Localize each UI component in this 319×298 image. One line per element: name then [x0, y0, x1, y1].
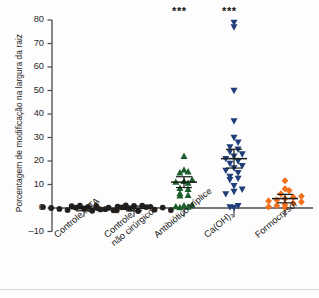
data-point: [57, 206, 63, 212]
data-point: [185, 186, 192, 192]
data-point: [235, 176, 242, 182]
data-point: [231, 118, 238, 124]
data-point: [226, 174, 233, 180]
significance-marker-2: ***: [172, 5, 187, 17]
data-point: [265, 197, 272, 204]
data-point: [239, 151, 246, 157]
data-point: [222, 191, 229, 197]
y-tick-label-60: 60: [18, 62, 44, 71]
data-point: [65, 207, 71, 213]
data-point: [181, 153, 188, 159]
data-point: [231, 88, 238, 94]
data-point: [235, 140, 242, 146]
y-tick-label-50: 50: [18, 86, 44, 95]
data-point: [111, 207, 117, 213]
y-tick-label-70: 70: [18, 39, 44, 48]
data-point: [298, 193, 305, 200]
data-point: [282, 177, 289, 184]
y-tick-label-40: 40: [18, 109, 44, 118]
data-point: [160, 205, 166, 211]
data-point: [181, 166, 188, 172]
y-tick-label-20: 20: [18, 156, 44, 165]
footer-divider: [0, 289, 319, 290]
y-tick-label--10: –10: [18, 227, 44, 236]
data-point: [239, 187, 246, 193]
data-point: [185, 192, 192, 198]
data-point: [231, 189, 238, 195]
y-tick-label-80: 80: [18, 15, 44, 24]
chart-figure: Porcentagem de modificação na largura da…: [0, 0, 319, 298]
data-point: [168, 207, 174, 213]
data-point: [119, 204, 125, 210]
significance-marker-3: ***: [222, 5, 237, 17]
data-point: [231, 183, 238, 189]
y-tick-label-10: 10: [18, 180, 44, 189]
data-point: [222, 168, 229, 174]
y-tick-label-30: 30: [18, 133, 44, 142]
plot-canvas: [0, 0, 319, 298]
data-point: [102, 206, 108, 212]
data-point: [48, 205, 54, 211]
data-point: [235, 170, 242, 176]
y-tick-label-0: 0: [18, 203, 44, 212]
